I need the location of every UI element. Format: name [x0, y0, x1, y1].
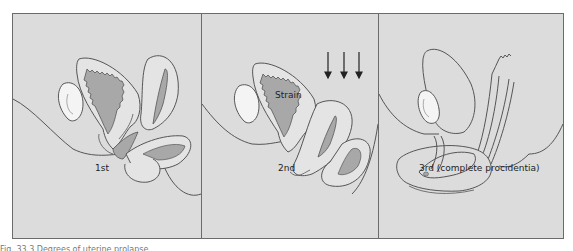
second-degree-label: 2nd [278, 163, 295, 173]
panel-third-degree: 3rd (complete procidentia) [379, 14, 563, 238]
strain-arrows-icon [325, 52, 362, 78]
panel-first-degree: 1st [13, 14, 201, 238]
strain-label: Strain [275, 90, 302, 100]
figure-frame: 1st Strain 2nd [12, 13, 564, 239]
panel-second-degree: Strain 2nd [202, 14, 378, 238]
figure-caption: Fig. 33.3 Degrees of uterine prolapse. [0, 244, 151, 251]
third-degree-illustration [379, 14, 563, 238]
second-degree-illustration [202, 14, 378, 238]
third-degree-label: 3rd (complete procidentia) [419, 163, 539, 173]
first-degree-illustration [13, 14, 201, 238]
first-degree-label: 1st [95, 163, 109, 173]
